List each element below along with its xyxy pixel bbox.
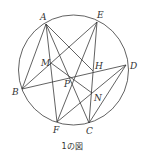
- segment-AC: [46, 24, 89, 123]
- label-M: M: [40, 58, 51, 68]
- segment-BD: [22, 65, 126, 89]
- geometry-figure: A E D B F C M H P N 1の図: [0, 0, 142, 162]
- label-H: H: [94, 61, 103, 71]
- label-D: D: [129, 61, 137, 71]
- label-B: B: [11, 87, 19, 97]
- label-C: C: [86, 126, 93, 136]
- segment-AB: [22, 24, 46, 89]
- label-F: F: [52, 125, 60, 135]
- label-E: E: [96, 10, 104, 20]
- point-labels: A E D B F C M H P N: [11, 10, 137, 136]
- label-N: N: [93, 93, 103, 103]
- segments: [22, 22, 126, 123]
- segment-MN: [51, 63, 92, 93]
- figure-caption: 1の図: [61, 142, 82, 151]
- segment-AH: [46, 24, 93, 71]
- label-A: A: [39, 12, 47, 22]
- segment-AF: [46, 24, 57, 122]
- label-P: P: [63, 79, 71, 89]
